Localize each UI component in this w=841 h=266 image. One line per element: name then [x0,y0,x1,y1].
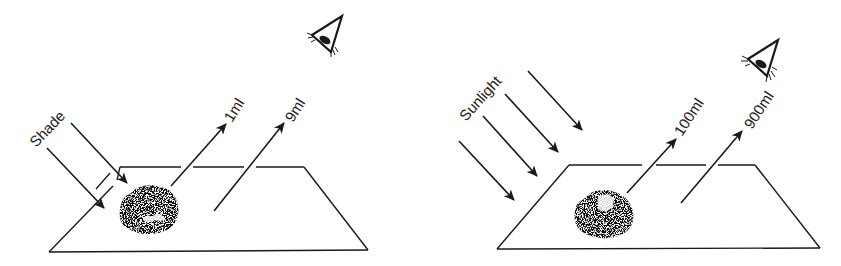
value-label-9ml: 9ml [281,95,308,125]
rock-icon [575,190,634,238]
arrow-up-100ml [627,139,676,193]
sunlight-label: Sunlight [456,72,505,124]
ground-plane [497,165,820,249]
arrow-down [528,71,582,130]
panel-shade: Shade 1ml 9ml [26,16,368,252]
reflected-light-arrows [627,131,742,203]
arrow-down [505,94,558,152]
arrow-down [71,123,127,183]
arrow-up-900ml [681,131,742,203]
incoming-light-arrows [47,123,127,208]
diagram: Shade 1ml 9ml [0,0,841,266]
ground-plane [49,167,368,252]
shade-label: Shade [26,107,68,150]
arrow-down [459,141,514,200]
arrow-down [47,148,104,208]
eye-icon [307,16,342,57]
value-label-100ml: 100ml [670,95,707,139]
value-label-900ml: 900ml [740,88,777,132]
arrow-up-1ml [171,124,226,186]
arrow-down [483,116,537,176]
panel-sunlight: Sunlight 100ml 900ml [456,40,820,249]
eye-icon [741,40,778,82]
rock-icon [120,185,179,234]
value-label-1ml: 1ml [220,95,247,125]
